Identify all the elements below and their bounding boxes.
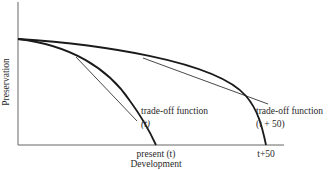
curve-t-label-sub: (t) [141, 119, 150, 130]
curve-t-plus-50 [18, 39, 266, 145]
tangent-t-plus-50 [143, 58, 268, 104]
x-tick-t-plus-50: t+50 [257, 149, 275, 159]
x-axis-label: Development [130, 159, 182, 169]
curve-t-plus-50-label: trade-off function [256, 106, 323, 116]
tradeoff-diagram: Preservation Development trade-off funct… [0, 0, 331, 170]
x-tick-present: present (t) [137, 149, 176, 160]
y-axis-label: Preservation [1, 58, 11, 106]
tangent-t [76, 57, 137, 121]
curve-t-plus-50-label-sub: (t + 50) [256, 119, 285, 130]
curve-t-label: trade-off function [141, 106, 208, 116]
curve-t [18, 39, 156, 145]
